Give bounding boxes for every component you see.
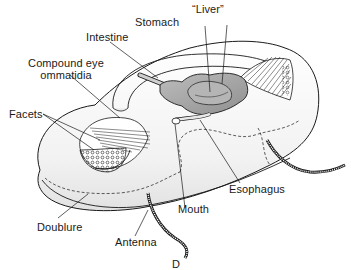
panel-letter: D <box>172 258 180 270</box>
label-antenna: Antenna <box>115 236 157 248</box>
label-intestine: Intestine <box>86 31 128 43</box>
label-doublure: Doublure <box>37 221 82 233</box>
label-liver: “Liver” <box>192 3 224 15</box>
label-esophagus: Esophagus <box>229 183 285 195</box>
label-compound-eye-line2: ommatidia <box>26 69 106 81</box>
diagram-canvas: Stomach “Liver” Intestine Compound eye o… <box>0 0 351 270</box>
label-facets: Facets <box>9 108 43 120</box>
label-mouth: Mouth <box>178 203 209 215</box>
label-compound-eye-line1: Compound eye <box>26 57 106 69</box>
label-stomach: Stomach <box>135 16 179 28</box>
label-compound-eye: Compound eye ommatidia <box>26 57 106 81</box>
